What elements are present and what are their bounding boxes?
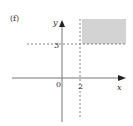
- y-tick-label: 3: [54, 41, 59, 50]
- x-axis-label: x: [117, 83, 122, 92]
- shaded-region: [82, 19, 126, 44]
- part-label: (f): [10, 14, 19, 23]
- x-axis-arrow-icon: [118, 75, 126, 81]
- y-axis-label: y: [52, 18, 58, 27]
- inequality-region-diagram: (f) y 3 0 2 x: [0, 0, 133, 126]
- y-axis-arrow-icon: [59, 20, 65, 27]
- origin-label: 0: [56, 80, 61, 89]
- x-tick-label: 2: [78, 82, 83, 91]
